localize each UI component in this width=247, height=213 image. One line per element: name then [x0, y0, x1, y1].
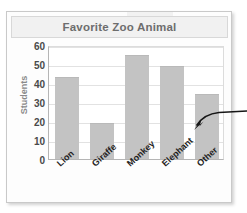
bar [55, 77, 79, 159]
chart-title: Favorite Zoo Animal [63, 21, 177, 33]
chart-figure: Favorite Zoo Animal Students 60504030201… [6, 11, 232, 203]
y-tick-label: 30 [34, 98, 45, 109]
y-tick-label: 40 [34, 79, 45, 90]
y-axis-tick-labels: 6050403020100 [23, 46, 45, 160]
y-tick-label: 10 [34, 136, 45, 147]
y-tick-label: 60 [34, 41, 45, 52]
chart-title-box: Favorite Zoo Animal [11, 16, 228, 38]
y-tick-label: 20 [34, 117, 45, 128]
plot-area [48, 46, 224, 160]
x-axis-category-labels: LionGiraffeMonkeyElephantOther [48, 161, 224, 205]
y-tick-label: 50 [34, 60, 45, 71]
y-tick-label: 0 [39, 155, 45, 166]
bar-series [49, 47, 223, 159]
